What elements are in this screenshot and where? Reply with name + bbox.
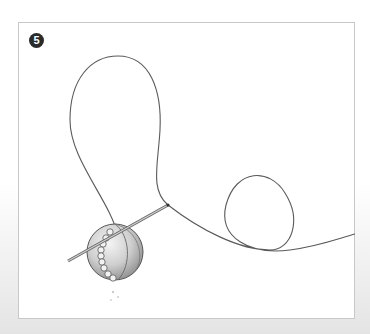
bead-ball: [87, 224, 143, 281]
illustration-canvas: [0, 0, 370, 334]
drips: [110, 291, 119, 301]
thread-line: [70, 56, 355, 251]
